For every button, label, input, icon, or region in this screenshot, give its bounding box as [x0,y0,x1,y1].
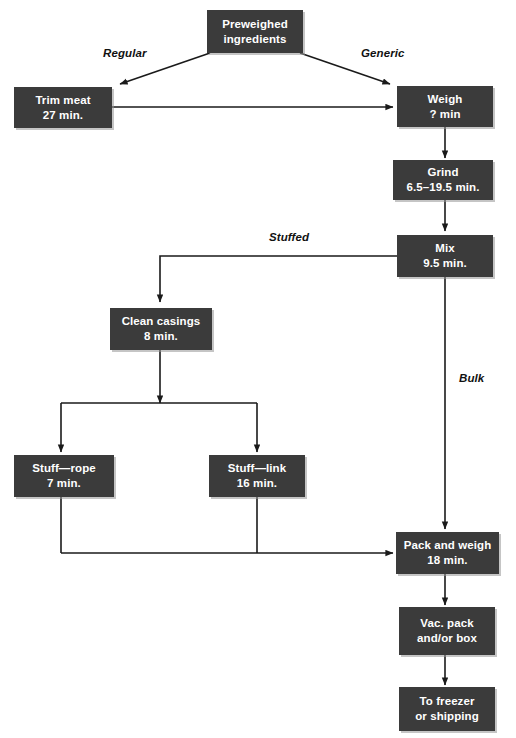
node-to-freezer-line2: or shipping [415,709,479,724]
node-vac-pack-line1: Vac. pack [420,616,473,631]
edge-mix-to-clean-casings [160,256,415,302]
node-weigh-line2: ? min [429,107,460,122]
node-pack-and-weigh[interactable]: Pack and weigh 18 min. [396,532,499,574]
node-trim-meat[interactable]: Trim meat 27 min. [14,87,112,128]
node-mix[interactable]: Mix 9.5 min. [397,235,493,277]
node-stuff-link-line2: 16 min. [237,476,277,491]
node-mix-line1: Mix [435,241,454,256]
node-preweighed-line2: ingredients [223,32,286,47]
node-weigh-line1: Weigh [428,92,463,107]
node-vac-pack[interactable]: Vac. pack and/or box [399,607,495,655]
node-pack-and-weigh-line2: 18 min. [427,553,467,568]
node-stuff-link-line1: Stuff—link [228,461,287,476]
edge-label-generic: Generic [361,47,405,59]
node-stuff-rope-line2: 7 min. [47,476,81,491]
edge-label-stuffed: Stuffed [269,231,309,243]
node-stuff-rope-line1: Stuff—rope [32,461,96,476]
node-stuff-rope[interactable]: Stuff—rope 7 min. [14,455,114,497]
node-stuff-link[interactable]: Stuff—link 16 min. [209,455,305,497]
node-preweighed-ingredients[interactable]: Preweighed ingredients [207,10,303,53]
node-clean-casings-line1: Clean casings [122,314,201,329]
node-trim-meat-line1: Trim meat [35,93,90,108]
node-clean-casings-line2: 8 min. [144,329,178,344]
edge-label-regular: Regular [103,47,147,59]
node-trim-meat-line2: 27 min. [43,108,83,123]
node-clean-casings[interactable]: Clean casings 8 min. [110,308,212,350]
node-to-freezer-line1: To freezer [419,694,474,709]
edge-label-bulk: Bulk [459,372,484,384]
node-weigh[interactable]: Weigh ? min [397,86,493,127]
node-grind-line2: 6.5–19.5 min. [407,180,480,195]
node-mix-line2: 9.5 min. [423,256,467,271]
node-to-freezer[interactable]: To freezer or shipping [399,687,495,731]
node-preweighed-line1: Preweighed [222,17,288,32]
flowchart: Preweighed ingredients Trim meat 27 min.… [0,0,516,738]
node-vac-pack-line2: and/or box [417,631,477,646]
node-grind[interactable]: Grind 6.5–19.5 min. [393,160,493,200]
node-pack-and-weigh-line1: Pack and weigh [404,538,492,553]
node-grind-line1: Grind [427,165,458,180]
